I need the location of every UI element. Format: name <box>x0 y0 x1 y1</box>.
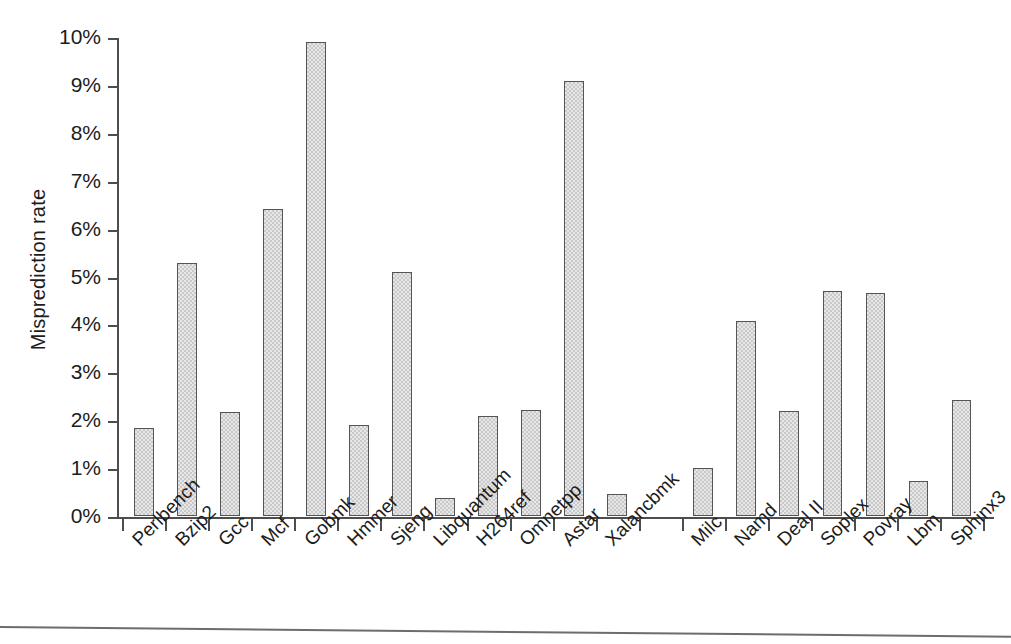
bar <box>693 468 713 516</box>
y-axis-tick-label: 5% <box>71 265 101 289</box>
y-axis-tick: 8% <box>108 134 117 136</box>
y-axis-tick-label: 4% <box>71 312 101 336</box>
bar <box>220 412 240 516</box>
y-axis-tick-label: 2% <box>71 408 101 432</box>
bar <box>564 81 584 516</box>
y-axis-tick: 10% <box>108 38 117 40</box>
y-axis-line <box>117 38 119 519</box>
bar <box>134 428 154 516</box>
y-axis-tick: 3% <box>108 373 117 375</box>
y-axis-tick-label: 10% <box>59 25 101 49</box>
y-axis-tick: 2% <box>108 421 117 423</box>
y-axis-tick-label: 0% <box>71 504 101 528</box>
bar <box>779 411 799 516</box>
scanned-page-edge <box>0 626 1011 638</box>
y-axis-tick: 0% <box>108 517 117 519</box>
bar <box>392 272 412 516</box>
y-axis-tick: 9% <box>108 86 117 88</box>
bar <box>823 291 843 516</box>
plot-area: 0%1%2%3%4%5%6%7%8%9%10% <box>117 38 993 518</box>
y-axis-tick: 1% <box>108 469 117 471</box>
bar <box>306 42 326 516</box>
bar <box>263 209 283 516</box>
x-axis-tick <box>682 519 684 531</box>
y-axis-tick: 4% <box>108 325 117 327</box>
bar <box>866 293 886 516</box>
y-axis-tick-label: 9% <box>71 73 101 97</box>
y-axis-tick: 7% <box>108 182 117 184</box>
y-axis-tick-label: 7% <box>71 169 101 193</box>
y-axis-tick-label: 1% <box>71 456 101 480</box>
y-axis-tick: 5% <box>108 278 117 280</box>
x-axis-tick <box>122 519 124 531</box>
bar <box>736 321 756 516</box>
y-axis-tick-label: 3% <box>71 360 101 384</box>
y-axis-tick-label: 8% <box>71 121 101 145</box>
y-axis-title: Misprediction rate <box>27 140 50 400</box>
bar <box>952 400 972 516</box>
bar-chart-figure: Misprediction rate 0%1%2%3%4%5%6%7%8%9%1… <box>0 0 1011 644</box>
y-axis-tick: 6% <box>108 230 117 232</box>
y-axis-tick-label: 6% <box>71 217 101 241</box>
x-axis-tick <box>294 519 296 531</box>
